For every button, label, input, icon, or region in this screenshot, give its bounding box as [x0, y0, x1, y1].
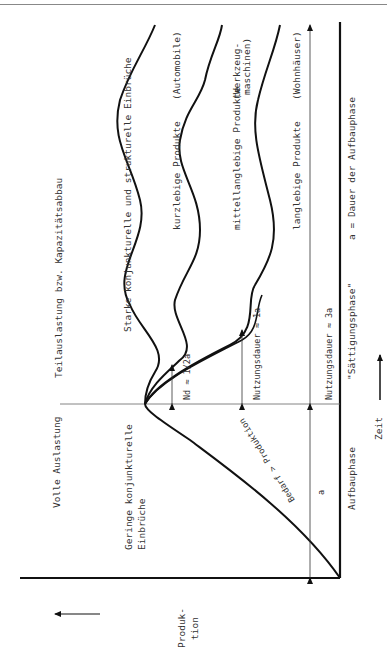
- curve-medium-example-2: maschinen): [241, 38, 252, 95]
- curve-short-label: kurzlebige Produkte: [171, 121, 182, 230]
- nd-1a-label: Nutzungsdauer ≈ 1a: [252, 308, 262, 400]
- demand-gt-production: Bedarf > Produktion: [237, 416, 297, 504]
- nd-3a-label: Nutzungsdauer ≈ 3a: [324, 308, 334, 400]
- curve-medium-label: mittellanglebige Produkte: [231, 87, 242, 230]
- a-marker-label: a: [316, 490, 326, 495]
- product-lifecycle-diagram: Volle Auslastung Teilauslastung bzw. Kap…: [0, 0, 387, 663]
- curve-long-lived-2: [145, 295, 262, 404]
- phase-buildup: Aufbauphase: [346, 447, 357, 510]
- zone-full-load: Volle Auslastung: [51, 416, 62, 508]
- curve-short-example: (Automobile): [171, 31, 182, 100]
- x-axis-label: Zeit: [373, 417, 384, 440]
- zone-partial-load: Teilauslastung bzw. Kapazitätsabbau: [53, 178, 64, 378]
- y-axis-label-1: Produk-: [176, 608, 187, 648]
- curve-long-label: langlebige Produkte: [291, 121, 302, 230]
- curve-long-example: (Wohnhäuser): [291, 31, 302, 100]
- nd-half-a-label: Nd ≈ 1/2a: [182, 354, 192, 400]
- legend-a: a = Dauer der Aufbauphase: [346, 97, 357, 240]
- minor-dips-line2: Einbrüche: [136, 498, 147, 550]
- phase-saturation: "Sättigungsphase": [346, 283, 357, 380]
- minor-dips-line1: Geringe konjunkturelle: [123, 424, 134, 550]
- strong-dips: Starke konjunkturelle und strukturelle E…: [122, 57, 133, 332]
- y-axis-label-2: tion: [189, 617, 200, 640]
